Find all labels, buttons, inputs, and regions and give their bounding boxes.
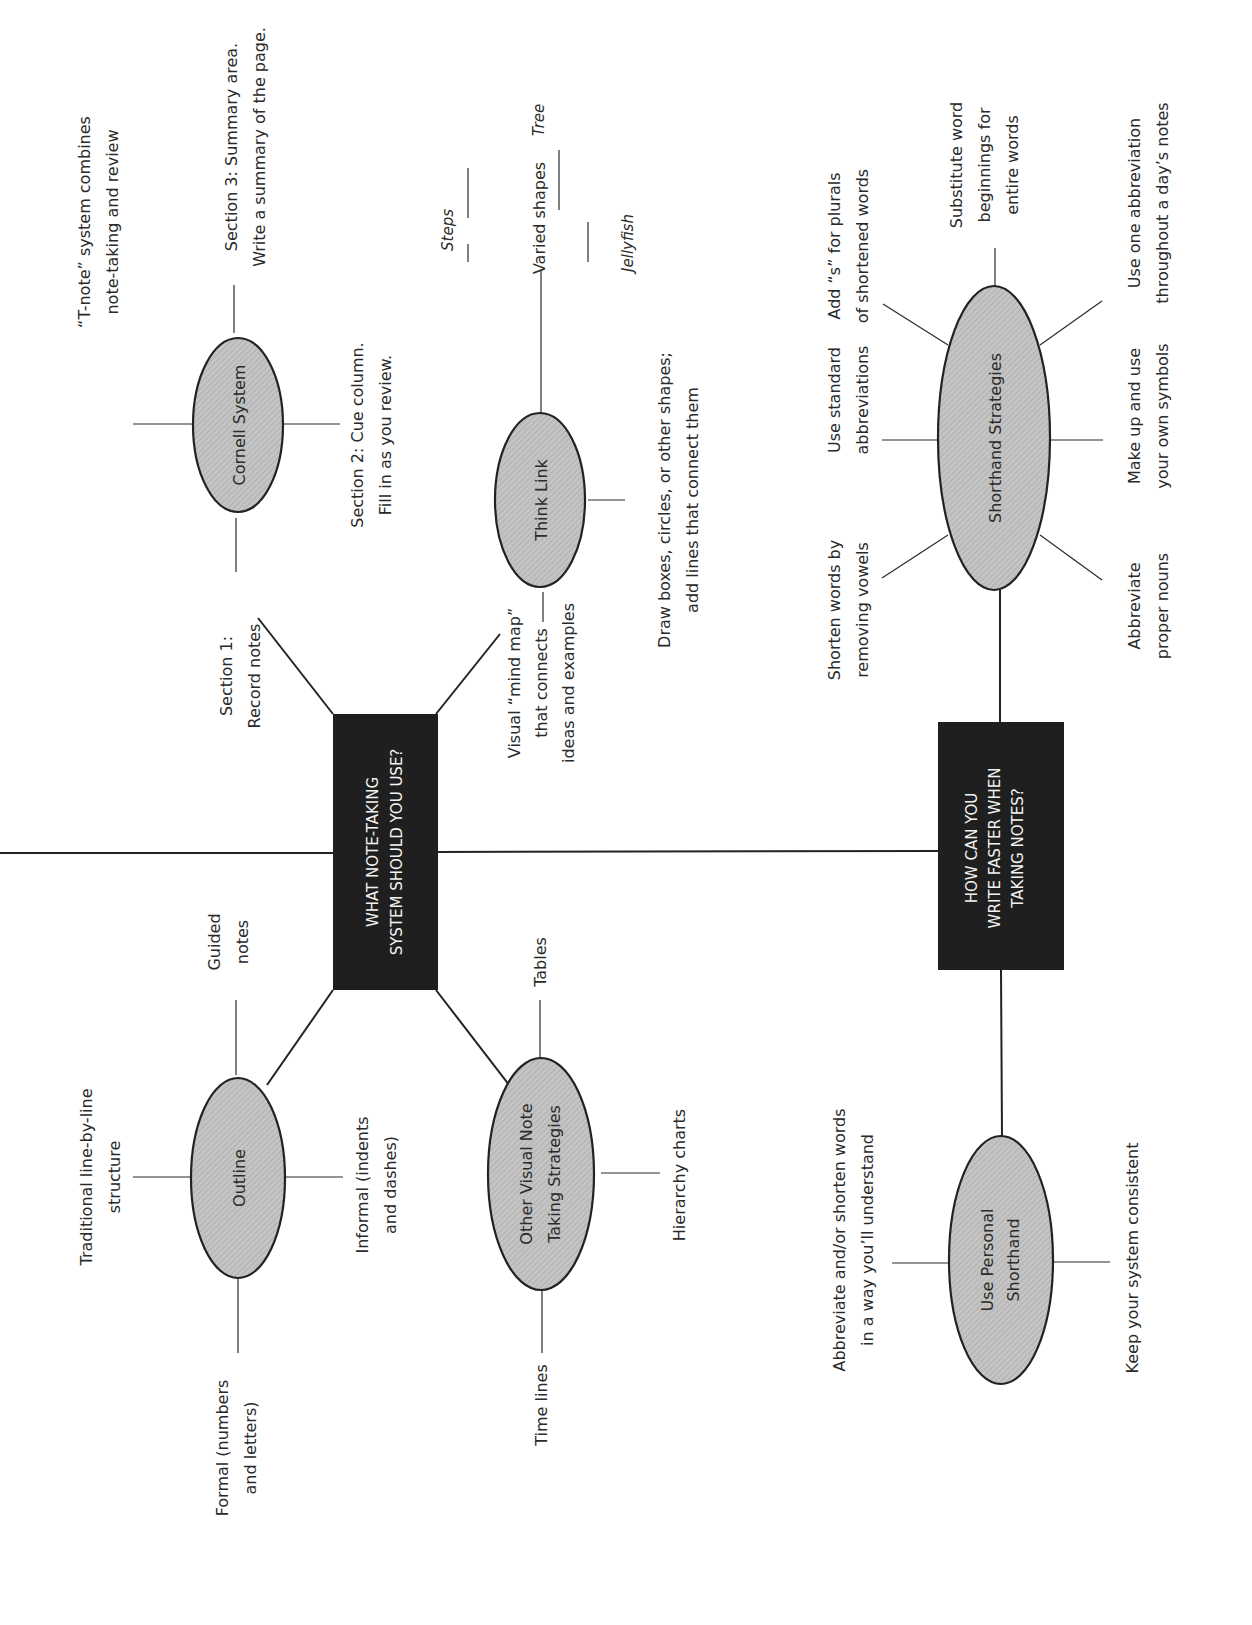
node-outline-label: Outline [230,1149,249,1207]
hub1-line2: SYSTEM SHOULD YOU USE? [388,749,406,956]
leaf-vowels-2: removing vowels [853,542,872,678]
node-othervisual-label-2: Taking Strategies [545,1105,564,1244]
leaf-varied-shapes: Varied shapes [530,162,549,274]
leaf-draw-2: add lines that connect them [683,387,702,613]
hub2-line1: HOW CAN YOU [963,793,981,904]
node-other-visual [488,1058,594,1290]
diagram-canvas: WHAT NOTE-TAKING SYSTEM SHOULD YOU USE? … [0,0,1252,1625]
leaf-oneabbr-1: Use one abbreviation [1125,118,1144,288]
leaf-proper-2: proper nouns [1153,553,1172,659]
leaf-line-oneabbr [1040,301,1102,345]
connector-personal [1001,970,1002,1136]
node-personal-label-2: Shorthand [1004,1218,1023,1301]
leaf-plurals-1: Add “s” for plurals [825,172,844,319]
node-cornell-label: Cornell System [230,365,249,486]
leaf-formal-2: and letters) [241,1401,260,1494]
leaf-hierarchy: Hierarchy charts [670,1109,689,1241]
leaf-section1-1: Section 1: [217,636,236,716]
leaf-symbols-1: Make up and use [1125,348,1144,484]
connector-thinklink [436,634,500,714]
leaf-draw-1: Draw boxes, circles, or other shapes; [655,352,674,648]
leaf-guided-2: notes [233,920,252,964]
leaf-abbreviate-1: Abbreviate and/or shorten words [830,1108,849,1371]
leaf-guided-1: Guided [205,913,224,970]
leaf-abbreviate-2: in a way you’ll understand [858,1134,877,1346]
leaf-vowels-1: Shorten words by [825,540,844,680]
hub2-line3: TAKING NOTES? [1009,788,1027,908]
connector-cornell [258,618,333,714]
node-personal-shorthand [949,1136,1053,1384]
leaf-substitute-2: beginnings for [975,107,994,222]
node-thinklink-label: Think Link [532,458,551,541]
hub-what-system-box [333,714,438,990]
leaf-section3-1: Section 3: Summary area. [222,43,241,251]
node-othervisual-label-1: Other Visual Note [517,1103,536,1244]
mind-map-diagram: WHAT NOTE-TAKING SYSTEM SHOULD YOU USE? … [0,0,1252,1625]
node-personal-label-1: Use Personal [978,1209,997,1312]
leaf-tnote-1: “T-note” system combines [75,116,94,328]
leaf-substitute-3: entire words [1003,115,1022,215]
leaf-section1-2: Record notes [245,624,264,729]
leaf-mindmap-3: ideas and examples [559,603,578,763]
leaf-substitute-1: Substitute word [947,102,966,228]
leaf-symbols-2: your own symbols [1153,343,1172,488]
leaf-informal-2: and dashes) [381,1136,400,1234]
node-shorthand-label: Shorthand Strategies [986,353,1005,523]
leaf-section2-2: Fill in as you review. [376,355,395,515]
connector-othervisual [436,990,513,1090]
leaf-informal-1: Informal (indents [353,1116,372,1253]
leaf-proper-1: Abbreviate [1125,562,1144,649]
leaf-mindmap-1: Visual “mind map” [505,608,524,758]
leaf-timelines: Time lines [532,1364,551,1446]
leaf-mindmap-2: that connects [532,628,551,738]
leaf-consistent: Keep your system consistent [1123,1143,1142,1374]
leaf-section2-1: Section 2: Cue column. [348,342,367,527]
leaf-traditional-1: Traditional line-by-line [77,1088,96,1266]
hub2-line2: WRITE FASTER WHEN [986,768,1004,929]
leaf-standard-2: abbreviations [853,346,872,455]
leaf-tree: Tree [530,104,548,137]
leaf-line-plurals [883,304,948,345]
leaf-standard-1: Use standard [825,347,844,453]
leaf-oneabbr-2: throughout a day’s notes [1153,102,1172,303]
leaf-plurals-2: of shortened words [853,169,872,323]
leaf-steps: Steps [439,209,457,251]
leaf-line-vowels [882,535,948,578]
connector-outline [267,990,333,1085]
leaf-section3-2: Write a summary of the page. [250,27,269,267]
spine-middle [438,851,938,852]
leaf-jellyfish: Jellyfish [619,214,637,275]
hub1-line1: WHAT NOTE-TAKING [364,777,382,927]
leaf-traditional-2: structure [105,1141,124,1214]
leaf-tables: Tables [531,937,550,988]
leaf-formal-1: Formal (numbers [213,1380,232,1517]
leaf-tnote-2: note-taking and review [103,129,122,314]
leaf-line-proper [1040,535,1102,580]
